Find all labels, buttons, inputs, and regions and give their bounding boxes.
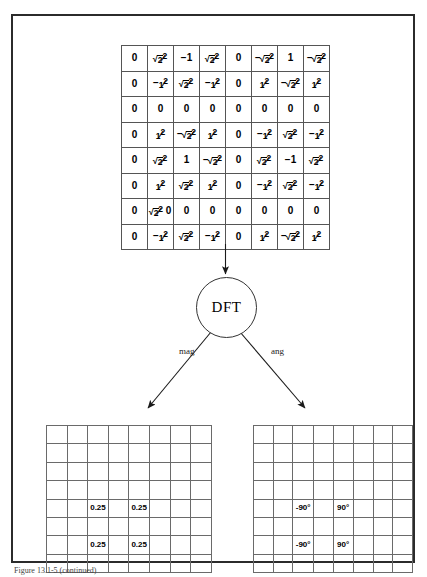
magnitude-cell [47, 444, 68, 462]
matrix-cell: −2⁄2 [278, 224, 304, 250]
magnitude-cell [108, 499, 129, 517]
angle-cell [373, 481, 393, 499]
magnitude-cell [149, 462, 170, 480]
matrix-cell: 1⁄2 [304, 224, 330, 250]
angle-cell [393, 499, 413, 517]
magnitude-cell [170, 499, 191, 517]
magnitude-cell [170, 517, 191, 535]
matrix-cell: 0 [174, 199, 200, 225]
matrix-cell: 0 [226, 224, 252, 250]
grid-row [47, 517, 212, 535]
angle-cell [353, 499, 373, 517]
magnitude-cell [191, 444, 212, 462]
matrix-cell: 0 [226, 173, 252, 199]
matrix-cell: −1⁄2 [148, 71, 174, 97]
angle-cell [373, 426, 393, 444]
angle-cell [273, 462, 293, 480]
angle-cell [273, 444, 293, 462]
angle-cell [393, 426, 413, 444]
matrix-cell: 0 [304, 97, 330, 123]
angle-cell: 90° [333, 499, 353, 517]
matrix-cell: 2⁄2 [174, 71, 200, 97]
matrix-cell: 0 [200, 97, 226, 123]
matrix-cell: 0 [226, 97, 252, 123]
grid-row: -90°90° [254, 536, 413, 554]
magnitude-cell [67, 517, 88, 535]
matrix-cell: 0 [200, 199, 226, 225]
angle-cell [273, 481, 293, 499]
grid-row: -90°90° [254, 499, 413, 517]
magnitude-cell: 0.25 [88, 499, 109, 517]
angle-cell [333, 426, 353, 444]
magnitude-cell [67, 536, 88, 554]
magnitude-cell: 0.25 [129, 499, 150, 517]
matrix-cell: 0 [278, 97, 304, 123]
angle-cell [393, 481, 413, 499]
grid-row [47, 444, 212, 462]
angle-cell [353, 536, 373, 554]
grid-row [254, 462, 413, 480]
magnitude-cell [108, 536, 129, 554]
grid-row [47, 481, 212, 499]
magnitude-cell [129, 481, 150, 499]
angle-cell [313, 444, 333, 462]
matrix-row: 02⁄21−2⁄202⁄2−12⁄2 [122, 148, 330, 174]
magnitude-cell [108, 462, 129, 480]
magnitude-cell [191, 481, 212, 499]
matrix-cell: 1⁄2 [200, 122, 226, 148]
matrix-cell: −1⁄2 [200, 71, 226, 97]
figure-caption: Figure 13.1-5 (continued) [14, 566, 414, 576]
matrix-cell: 1⁄2 [304, 71, 330, 97]
angle-cell [373, 536, 393, 554]
matrix-cell: 0 [226, 71, 252, 97]
magnitude-cell [191, 536, 212, 554]
matrix-cell: 2⁄2 [200, 46, 226, 72]
matrix-cell: −1⁄2 [148, 224, 174, 250]
angle-cell [373, 444, 393, 462]
angle-cell [333, 517, 353, 535]
matrix-row: 01⁄22⁄21⁄20−1⁄22⁄2−1⁄2 [122, 173, 330, 199]
matrix-cell: 2⁄2 [278, 173, 304, 199]
angle-branch-label: ang [271, 346, 284, 356]
angle-cell [273, 536, 293, 554]
matrix-cell: 2⁄2 [278, 122, 304, 148]
magnitude-cell [149, 499, 170, 517]
matrix-cell: 1 [174, 148, 200, 174]
angle-cell [393, 444, 413, 462]
magnitude-cell [108, 426, 129, 444]
matrix-cell: 1⁄2 [252, 224, 278, 250]
matrix-cell: 1 [278, 46, 304, 72]
matrix-row: 0−1⁄22⁄2−1⁄201⁄2−2⁄21⁄2 [122, 71, 330, 97]
magnitude-cell [108, 444, 129, 462]
matrix-cell: 0 [252, 97, 278, 123]
matrix-cell: 0 [122, 224, 148, 250]
matrix-cell: −1⁄2 [200, 224, 226, 250]
matrix-cell: 0 [304, 199, 330, 225]
matrix-cell: 0 [278, 199, 304, 225]
matrix-cell: 0 [252, 199, 278, 225]
angle-cell [353, 444, 373, 462]
magnitude-cell [170, 536, 191, 554]
magnitude-cell [129, 426, 150, 444]
magnitude-cell [47, 426, 68, 444]
angle-cell [333, 481, 353, 499]
magnitude-cell [149, 426, 170, 444]
magnitude-cell [129, 517, 150, 535]
magnitude-cell: 0.25 [88, 536, 109, 554]
matrix-cell: 0 [148, 97, 174, 123]
magnitude-cell [149, 444, 170, 462]
matrix-cell: −1⁄2 [304, 173, 330, 199]
dft-node: DFT [196, 277, 257, 338]
grid-row [254, 444, 413, 462]
angle-cell [273, 499, 293, 517]
matrix-row: 01⁄2−2⁄21⁄20−1⁄22⁄2−1⁄2 [122, 122, 330, 148]
angle-cell [373, 462, 393, 480]
matrix-cell: −2⁄2 [252, 46, 278, 72]
magnitude-cell [47, 462, 68, 480]
angle-cell [254, 517, 274, 535]
angle-cell [254, 536, 274, 554]
angle-cell [373, 517, 393, 535]
matrix-cell: 2⁄2 [304, 148, 330, 174]
angle-cell [353, 481, 373, 499]
angle-cell [293, 517, 313, 535]
